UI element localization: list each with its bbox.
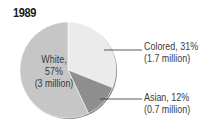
label-colored: Colored, 31% (1.7 million) <box>144 40 198 64</box>
label-white-percent: 57% <box>34 65 75 77</box>
label-asian: Asian, 12% (0.7 million) <box>144 91 190 115</box>
label-colored-name: Colored, 31% <box>144 40 198 52</box>
label-colored-population: (1.7 million) <box>144 52 198 64</box>
label-white: White, 57% (3 million) <box>34 53 75 89</box>
label-white-name: White, <box>34 53 75 65</box>
label-asian-population: (0.7 million) <box>144 103 190 115</box>
label-asian-name: Asian, 12% <box>144 91 190 103</box>
label-white-population: (3 million) <box>34 77 75 89</box>
